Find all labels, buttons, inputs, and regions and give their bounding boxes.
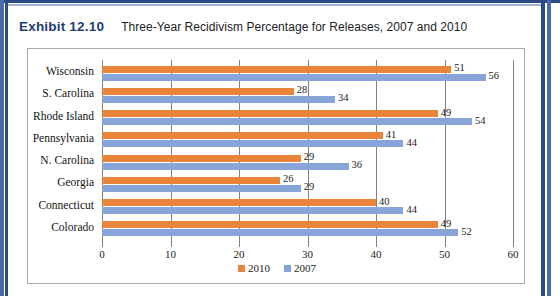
bar-2010-s-carolina [102, 88, 294, 95]
legend-swatch-icon [284, 265, 291, 272]
x-tick-mark [239, 242, 240, 247]
bar-2007-s-carolina [102, 96, 335, 103]
y-axis-label: Pennsylvania [28, 132, 100, 144]
frame-left-outer-rule [0, 0, 4, 296]
x-tick-label: 40 [356, 248, 396, 260]
bar-2010-wisconsin [102, 66, 451, 73]
bar-value-label: 28 [297, 84, 308, 95]
legend-label: 2010 [248, 262, 270, 274]
gridline [376, 60, 377, 242]
bar-value-label: 41 [386, 129, 397, 140]
bar-value-label: 40 [379, 196, 390, 207]
bar-2007-rhode-island [102, 118, 472, 125]
gridline [513, 60, 514, 242]
x-tick-mark [513, 242, 514, 247]
bar-2010-colorado [102, 221, 438, 228]
bar-value-label: 29 [304, 151, 315, 162]
exhibit-title-row: Exhibit 12.10 Three-Year Recidivism Perc… [19, 17, 524, 39]
x-tick-label: 20 [219, 248, 259, 260]
chart-container: 0102030405060 ColoradoConnecticutGeorgia… [27, 48, 525, 284]
x-tick-mark [445, 242, 446, 247]
bar-value-label: 44 [406, 204, 417, 215]
legend-item-2010[interactable]: 2010 [238, 262, 270, 274]
y-axis-label: Georgia [28, 176, 100, 188]
bar-2010-n-carolina [102, 155, 301, 162]
legend-item-2007[interactable]: 2007 [284, 262, 316, 274]
bar-value-label: 29 [304, 181, 315, 192]
y-axis-label: Colorado [28, 221, 100, 233]
exhibit-number: Exhibit 12.10 [19, 19, 104, 34]
bar-2010-connecticut [102, 199, 376, 206]
bar-2007-n-carolina [102, 163, 349, 170]
bar-2010-rhode-island [102, 110, 438, 117]
x-tick-mark [308, 242, 309, 247]
page-title: Three-Year Recidivism Percentage for Rel… [121, 20, 467, 34]
bar-value-label: 49 [441, 218, 452, 229]
x-tick-mark [102, 242, 103, 247]
bar-value-label: 56 [489, 70, 500, 81]
y-axis-label: Connecticut [28, 199, 100, 211]
x-tick-label: 30 [288, 248, 328, 260]
x-tick-label: 10 [151, 248, 191, 260]
y-axis-label: Wisconsin [28, 65, 100, 77]
gridline [445, 60, 446, 242]
frame-left-inner-rule [5, 0, 8, 296]
x-tick-label: 0 [82, 248, 122, 260]
x-tick-mark [376, 242, 377, 247]
bar-value-label: 26 [283, 173, 294, 184]
x-tick-label: 60 [493, 248, 533, 260]
chart-legend: 20102007 [28, 262, 526, 274]
x-tick-mark [171, 242, 172, 247]
frame-top-rule [0, 0, 560, 3]
bar-2007-georgia [102, 185, 301, 192]
bar-2007-pennsylvania [102, 140, 403, 147]
frame-right-outer-rule [547, 0, 551, 296]
bar-value-label: 51 [454, 62, 465, 73]
bar-2010-georgia [102, 177, 280, 184]
bar-value-label: 34 [338, 92, 349, 103]
bar-2007-wisconsin [102, 74, 486, 81]
y-axis-label: S. Carolina [28, 87, 100, 99]
bar-value-label: 49 [441, 107, 452, 118]
bar-value-label: 44 [406, 137, 417, 148]
bar-2007-connecticut [102, 207, 403, 214]
bar-2010-pennsylvania [102, 132, 383, 139]
frame-right-inner-rule [541, 0, 545, 296]
content-sheet: Exhibit 12.10 Three-Year Recidivism Perc… [9, 7, 540, 296]
bar-value-label: 52 [461, 226, 472, 237]
legend-label: 2007 [294, 262, 316, 274]
bar-value-label: 54 [475, 115, 486, 126]
y-axis-label: Rhode Island [28, 110, 100, 122]
bar-value-label: 36 [352, 159, 363, 170]
bar-2007-colorado [102, 229, 458, 236]
legend-swatch-icon [238, 265, 245, 272]
frame-top-inner-rule [8, 4, 541, 6]
x-tick-label: 50 [425, 248, 465, 260]
y-axis-label: N. Carolina [28, 154, 100, 166]
exhibit-page: Exhibit 12.10 Three-Year Recidivism Perc… [0, 0, 560, 296]
